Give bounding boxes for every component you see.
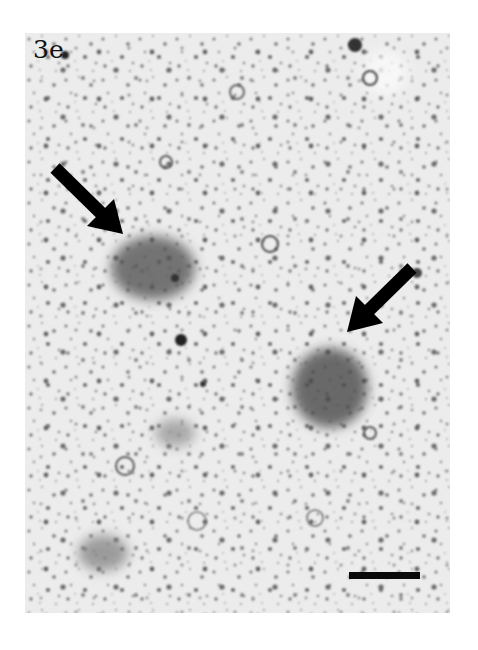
tissue-texture — [25, 33, 450, 613]
scale-bar — [349, 572, 420, 579]
panel-label: 3e — [33, 37, 64, 62]
micrograph-image: 3e — [25, 33, 450, 613]
